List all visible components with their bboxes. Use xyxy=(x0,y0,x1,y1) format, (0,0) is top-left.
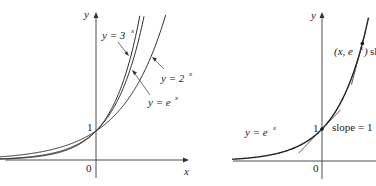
leader-e-arrow-icon xyxy=(132,70,137,75)
right-y-arrow-icon xyxy=(320,12,325,18)
label-3-pow-x-main: y = 3 xyxy=(101,29,126,41)
left-y-arrow-icon xyxy=(94,12,99,18)
right-origin-label: 0 xyxy=(313,162,319,174)
label-3-pow-x-sup: x xyxy=(130,27,135,35)
svg-text:y = 3: y = 3 xyxy=(101,29,126,41)
left-origin-label: 0 xyxy=(86,162,92,174)
label-2-pow-x: y = 2 x xyxy=(152,57,193,84)
label-3-pow-x: y = 3 x xyxy=(101,27,135,56)
right-curve-label-main: y = e xyxy=(244,126,268,138)
slope-label: slope = 1 xyxy=(332,121,372,133)
label-2-pow-x-main: y = 2 xyxy=(160,72,185,84)
right-y-axis-label: y xyxy=(310,9,316,21)
leader-e-pow-x xyxy=(133,71,150,95)
left-y-axis-label: y xyxy=(83,8,89,20)
point-label-main: (x, e xyxy=(334,45,353,58)
point-0-1 xyxy=(320,127,324,131)
point-note-label: sl xyxy=(370,45,376,57)
left-y-one-label: 1 xyxy=(87,121,93,133)
tangent-at-point xyxy=(351,32,365,85)
left-chart: y x 0 1 y = 3 x y = 2 x y = e x xyxy=(0,8,193,178)
left-x-axis-label: x xyxy=(183,165,189,177)
left-x-arrow-icon xyxy=(183,158,189,163)
label-2-pow-x-sup: x xyxy=(188,70,193,78)
label-e-pow-x-sup: x xyxy=(174,94,179,102)
right-y-one-label: 1 xyxy=(313,122,319,134)
right-curve-label-sup: x xyxy=(272,124,277,132)
label-e-pow-x-main: y = e xyxy=(147,96,171,108)
curve-2-pow-x xyxy=(0,15,166,157)
point-label-close: ) xyxy=(363,45,368,58)
svg-text:y = 2: y = 2 xyxy=(160,72,185,84)
svg-text:y = e: y = e xyxy=(147,96,171,108)
right-chart: y 0 1 slope = 1 y = e x (x, e x ) sl xyxy=(232,9,376,179)
figure: y x 0 1 y = 3 x y = 2 x y = e x xyxy=(0,0,376,186)
